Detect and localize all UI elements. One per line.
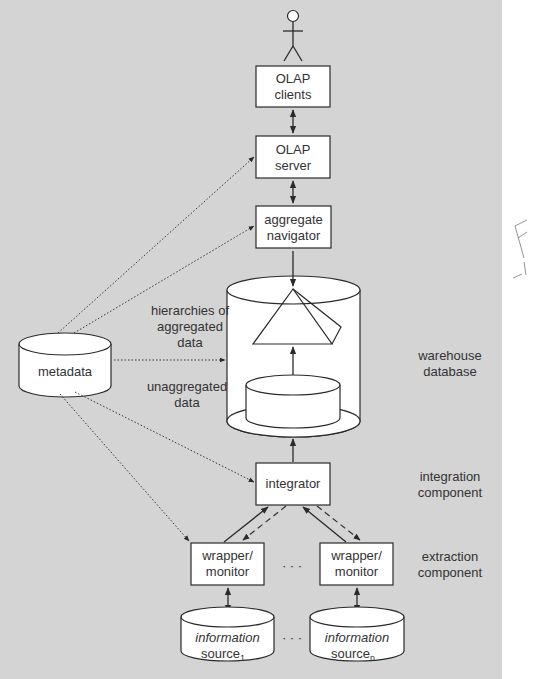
integration-component-label-2: component xyxy=(418,485,483,500)
aggregated-data-label-1: hierarchies of xyxy=(151,303,229,318)
source-n-label-1: information xyxy=(325,630,389,645)
aggregated-data-label-2: aggregated xyxy=(157,319,223,334)
unaggregated-data-label-2: data xyxy=(174,395,200,410)
olap-server-label-1: OLAP xyxy=(276,142,311,157)
source-1-label-2: source1 xyxy=(201,646,245,663)
wrapper-n-label-1: wrapper/ xyxy=(330,548,382,563)
wrapper-1-label-2: monitor xyxy=(206,564,250,579)
olap-clients-label-1: OLAP xyxy=(276,71,311,86)
olap-server-box: OLAP server xyxy=(256,136,330,178)
wrapper-monitor-1-box: wrapper/ monitor xyxy=(191,543,264,585)
integrator-box: integrator xyxy=(256,463,330,505)
unaggregated-data-cylinder xyxy=(246,375,340,428)
aggregate-navigator-label-1: aggregate xyxy=(264,212,323,227)
aggregate-navigator-label-2: navigator xyxy=(267,228,321,243)
integration-component-label-1: integration xyxy=(420,469,481,484)
metadata-label: metadata xyxy=(38,364,93,379)
aggregated-data-label-3: data xyxy=(177,335,203,350)
aggregate-navigator-box: aggregate navigator xyxy=(256,206,331,248)
source-n-label-2: sourcen xyxy=(331,646,375,663)
wrapper-n-label-2: monitor xyxy=(335,564,379,579)
wrapper-monitor-n-box: wrapper/ monitor xyxy=(320,543,393,585)
handwritten-margin-mark xyxy=(513,220,527,278)
unaggregated-data-label-1: unaggregated xyxy=(147,379,227,394)
warehouse-architecture-diagram: OLAP clients OLAP server aggregate navig… xyxy=(0,0,535,679)
information-source-n-cylinder: information sourcen xyxy=(310,607,404,663)
source-ellipsis: · · · xyxy=(282,630,302,645)
metadata-cylinder: metadata xyxy=(19,333,111,397)
warehouse-database-label-1: warehouse xyxy=(417,348,482,363)
wrapper-1-label-1: wrapper/ xyxy=(201,548,253,563)
warehouse-database-label-2: database xyxy=(423,364,477,379)
integrator-label: integrator xyxy=(266,476,322,491)
wrapper-ellipsis: · · · xyxy=(282,558,302,573)
extraction-component-label-1: extraction xyxy=(422,549,478,564)
olap-clients-label-2: clients xyxy=(275,87,312,102)
olap-server-label-2: server xyxy=(275,158,312,173)
information-source-1-cylinder: information source1 xyxy=(181,607,274,663)
extraction-component-label-2: component xyxy=(418,565,483,580)
source-1-label-1: information xyxy=(195,630,259,645)
olap-clients-box: OLAP clients xyxy=(256,66,330,107)
